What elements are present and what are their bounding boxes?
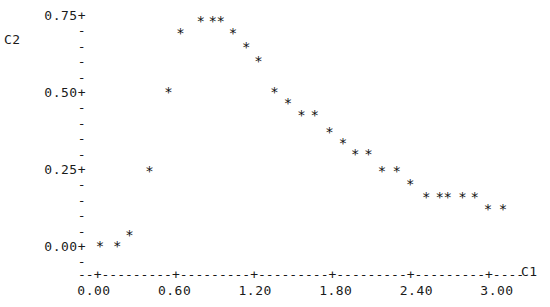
- x-tick-3.00: 3.00: [467, 283, 527, 298]
- data-point: *: [125, 228, 134, 239]
- data-point: *: [392, 164, 401, 175]
- data-point: *: [339, 136, 348, 147]
- data-point: *: [377, 164, 386, 175]
- data-point: *: [351, 147, 360, 158]
- data-point: *: [270, 85, 279, 96]
- data-point: *: [470, 190, 479, 201]
- y-tick-minor: -: [0, 100, 86, 115]
- x-tick-1.20: 1.20: [225, 283, 285, 298]
- x-tick-2.40: 2.40: [386, 283, 446, 298]
- x-tick-1.80: 1.80: [306, 283, 366, 298]
- y-tick-0.00: 0.00+: [0, 239, 86, 254]
- data-point: *: [164, 85, 173, 96]
- y-tick-0.50: 0.50+: [0, 85, 86, 100]
- y-tick-minor: -: [0, 116, 86, 131]
- data-point: *: [325, 125, 334, 136]
- y-tick-minor: -: [0, 177, 86, 192]
- data-point: *: [176, 26, 185, 37]
- y-tick-minor: -: [0, 254, 86, 269]
- data-point: *: [113, 239, 122, 250]
- y-tick-minor: -: [0, 193, 86, 208]
- y-tick-0.25: 0.25+: [0, 162, 86, 177]
- y-tick-minor: -: [0, 54, 86, 69]
- data-point: *: [216, 14, 225, 25]
- data-point: *: [283, 96, 292, 107]
- y-tick-minor: -: [0, 208, 86, 223]
- data-point: *: [310, 108, 319, 119]
- x-axis-rule: --+---------+---------+---------+-------…: [78, 267, 524, 282]
- data-point: *: [498, 202, 507, 213]
- y-tick-minor: -: [0, 39, 86, 54]
- data-point: *: [422, 190, 431, 201]
- data-point: *: [145, 164, 154, 175]
- x-tick-0.00: 0.00: [64, 283, 124, 298]
- data-point: *: [228, 26, 237, 37]
- x-tick-0.60: 0.60: [145, 283, 205, 298]
- data-point: *: [254, 54, 263, 65]
- y-tick-minor: -: [0, 224, 86, 239]
- data-point: *: [406, 177, 415, 188]
- character-plot: C2 C1 0.75+----0.50+----0.25+----0.00+- …: [0, 0, 550, 307]
- data-point: *: [196, 14, 205, 25]
- y-tick-minor: -: [0, 70, 86, 85]
- y-tick-minor: -: [0, 23, 86, 38]
- data-point: *: [95, 239, 104, 250]
- y-tick-0.75: 0.75+: [0, 8, 86, 23]
- y-tick-minor: -: [0, 131, 86, 146]
- data-point: *: [458, 190, 467, 201]
- data-point: *: [364, 147, 373, 158]
- data-point: *: [242, 40, 251, 51]
- y-tick-minor: -: [0, 147, 86, 162]
- data-point: *: [297, 108, 306, 119]
- data-point: *: [484, 202, 493, 213]
- data-point: *: [443, 190, 452, 201]
